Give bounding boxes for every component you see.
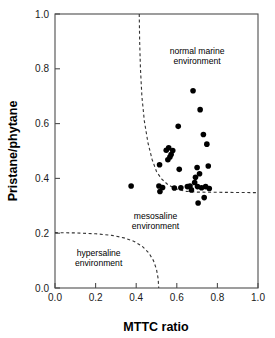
data-point xyxy=(157,162,163,168)
y-tick-label: 1.0 xyxy=(35,9,49,20)
data-point xyxy=(175,124,181,130)
y-tick-label: 0.8 xyxy=(35,63,49,74)
hypersaline-label: hypersalineenvironment xyxy=(75,248,123,268)
normal-marine-label: normal marineenvironment xyxy=(170,46,225,66)
data-point xyxy=(194,165,200,171)
data-point xyxy=(160,185,166,191)
x-tick-label: 0.2 xyxy=(89,292,103,303)
y-tick-label: 0.0 xyxy=(35,283,49,294)
data-point xyxy=(195,200,201,206)
y-tick-label: 0.2 xyxy=(35,228,49,239)
data-point xyxy=(189,187,195,193)
x-tick-label: 0.4 xyxy=(129,292,143,303)
annotation-line: hypersaline xyxy=(77,248,121,258)
data-point xyxy=(201,195,207,201)
data-point xyxy=(170,148,176,154)
annotation-line: normal marine xyxy=(170,46,225,56)
x-tick-label: 0.6 xyxy=(170,292,184,303)
mesosaline-label: mesosalineenvironment xyxy=(132,211,180,231)
x-tick-label: 0.0 xyxy=(48,292,62,303)
data-point xyxy=(204,141,210,147)
annotation-line: environment xyxy=(132,221,180,231)
data-point xyxy=(206,186,212,192)
data-point xyxy=(172,185,178,191)
annotation-line: mesosaline xyxy=(134,211,178,221)
y-tick-label: 0.6 xyxy=(35,118,49,129)
y-tick-label: 0.4 xyxy=(35,173,49,184)
data-point xyxy=(205,163,211,169)
data-point xyxy=(201,132,207,138)
x-tick-label: 0.8 xyxy=(210,292,224,303)
scatter-plot-figure: 0.00.20.40.60.81.0 0.00.20.40.60.81.0 no… xyxy=(0,0,275,338)
data-point xyxy=(176,167,182,173)
annotation-line: environment xyxy=(173,56,221,66)
data-point xyxy=(190,88,196,94)
data-point xyxy=(128,183,134,189)
annotation-line: environment xyxy=(75,258,123,268)
x-tick-label: 1.0 xyxy=(251,292,265,303)
x-axis-title: MTTC ratio xyxy=(123,320,189,334)
data-point xyxy=(197,107,203,113)
data-point xyxy=(197,171,203,177)
data-point xyxy=(178,185,184,191)
plot-canvas: 0.00.20.40.60.81.0 0.00.20.40.60.81.0 no… xyxy=(0,0,275,338)
y-axis-title: Pristane/phytane xyxy=(6,101,20,202)
